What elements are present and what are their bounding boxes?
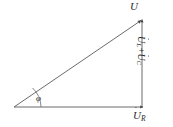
label-phase-angle: φ [36,94,41,103]
label-resultant-symbol: U [130,0,138,12]
label-capacitor-subscript: C [136,61,143,66]
label-inductor-symbol: U [136,36,147,43]
label-resistor-voltage: UR [133,110,146,122]
label-resultant-voltage: U [130,1,138,12]
label-reactance-voltage: UL+UC [135,36,146,65]
vector-resultant-voltage [14,21,141,108]
label-resistor-symbol: U [133,109,141,121]
phasor-diagram-figure: U UR UL+UC φ [0,0,173,127]
label-capacitor-symbol: U [136,53,147,60]
label-resistor-subscript: R [141,114,146,123]
phasor-diagram-canvas [0,0,173,127]
